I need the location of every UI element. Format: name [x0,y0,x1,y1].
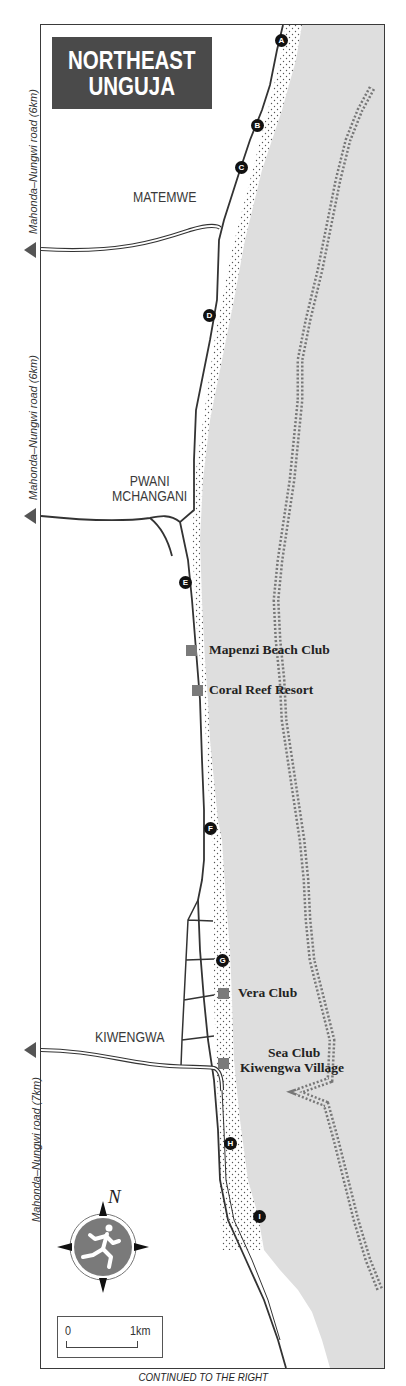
town-line-2: MCHANGANI [112,489,187,504]
hotel-sea-club[interactable]: Sea Club [268,1045,320,1060]
town-line-1: PWANI [112,474,187,489]
road-label-3: Mahonda–Nungwi road (7km) [30,1077,42,1222]
compass-north-label: N [108,1186,121,1208]
hotel-vera-club[interactable]: Vera Club [238,985,297,1000]
scale-ruler [66,1341,138,1348]
pin-i[interactable]: I [253,1210,266,1223]
pin-d[interactable]: D [203,309,216,322]
scale-bar: 0 1km [57,1316,163,1358]
road-label-1: Mahonda–Nungwi road (6km) [27,89,39,234]
hotel-marker-mapenzi[interactable] [186,645,197,656]
map-canvas [0,0,406,1386]
pwani-road [41,516,180,522]
town-pwani-mchangani: PWANI MCHANGANI [112,474,187,504]
hotel-marker-vera[interactable] [218,988,229,999]
town-kiwengwa: KIWENGWA [95,1030,164,1045]
road-exit-arrow-1 [24,242,36,258]
road-exit-arrow-3 [24,1042,36,1058]
map-title: NORTHEAST UNGUJA [52,37,212,109]
pin-a[interactable]: A [275,34,288,47]
pin-c[interactable]: C [235,161,248,174]
hotel-kiwengwa-village[interactable]: Kiwengwa Village [240,1060,344,1075]
road-label-2: Mahonda–Nungwi road (6km) [27,355,39,500]
pin-g[interactable]: G [216,954,229,967]
hotel-mapenzi-beach-club[interactable]: Mapenzi Beach Club [209,642,330,657]
compass-icon [57,1201,149,1293]
scale-start: 0 [65,1324,71,1338]
town-matemwe: MATEMWE [133,190,196,205]
pin-f[interactable]: F [204,822,217,835]
title-line-1: NORTHEAST [68,47,196,73]
hotel-marker-sea-club[interactable] [218,1058,229,1069]
road-exit-arrow-2 [24,508,36,524]
title-line-2: UNGUJA [89,73,176,99]
footer-text: CONTINUED TO THE RIGHT [138,1371,268,1383]
pin-b[interactable]: B [251,119,264,132]
continued-note: CONTINUED TO THE RIGHT [0,1371,406,1383]
kiwengwa-road [41,1050,222,1090]
hotel-marker-coral-reef[interactable] [192,685,203,696]
scale-end: 1km [130,1324,150,1338]
pin-e[interactable]: E [179,576,192,589]
hotel-coral-reef-resort[interactable]: Coral Reef Resort [209,682,313,697]
pin-h[interactable]: H [224,1137,237,1150]
